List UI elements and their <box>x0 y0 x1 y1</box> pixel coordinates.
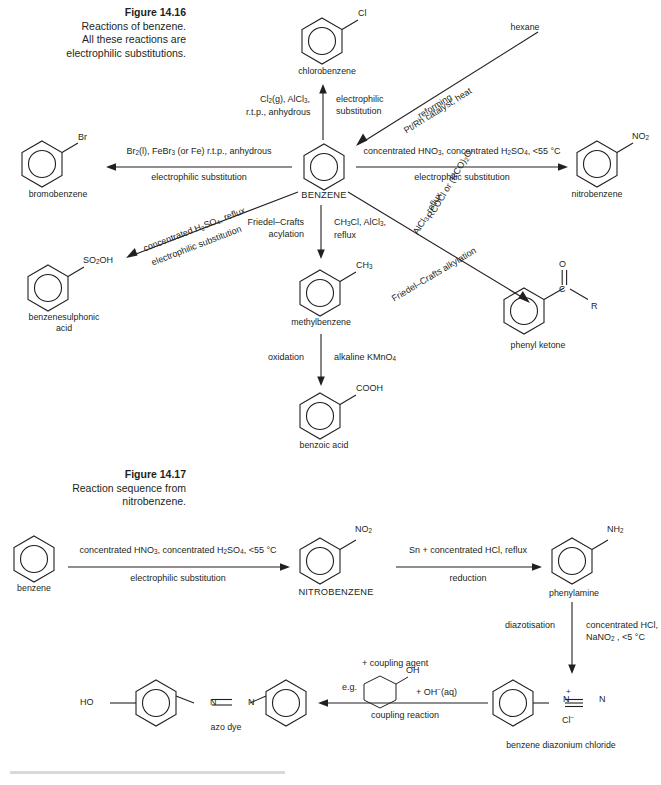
azo-dye-n2-label: N <box>248 697 255 709</box>
oxidation-arrow <box>314 334 328 390</box>
bromination-reagents: Br2(l), FeBr3 (or Fe) r.t.p., anhydrous <box>106 146 292 159</box>
diazotisation-reagents-line-1: concentrated HCl, <box>586 620 658 632</box>
diazotisation-reagents-line-2: NaNO2 , <5 °C <box>586 632 658 645</box>
fig2-nitrobenzene-name: NITROBENZENE <box>272 587 400 597</box>
phenyl-ketone-name: phenyl ketone <box>487 340 589 351</box>
alkylation-type-line-2: acylation <box>212 229 304 241</box>
bromobenzene-name: bromobenzene <box>2 189 114 200</box>
figure-14-16-caption-line-2: All these reactions are <box>0 33 186 47</box>
phenyl-ketone-r-label: R <box>591 301 598 313</box>
diazonium-charge-plus: + <box>566 686 571 698</box>
figure-14-17-caption-line-2: nitrobenzene. <box>0 495 186 509</box>
azo-dye-ho-label: HO <box>80 697 94 709</box>
diazotisation-arrow <box>565 602 579 678</box>
figure-14-17-caption: Figure 14.17 Reaction sequence from nitr… <box>0 468 186 509</box>
figure-14-16-title: Figure 14.16 <box>0 6 186 20</box>
bromobenzene-substituent-label: Br <box>78 132 87 144</box>
benzene-center-structure <box>298 141 350 197</box>
coupling-eg: e.g. <box>342 682 357 694</box>
nitrobenzene-substituent-label: NO2 <box>632 131 649 144</box>
benzenesulphonic-acid-name-line-2: acid <box>2 323 126 334</box>
reduction-type: reduction <box>390 573 546 585</box>
chlorination-arrow <box>316 84 330 144</box>
chlorination-reagents-line-1: Cl2(g), AlCl3, <box>246 94 310 107</box>
diazonium-n-plus-label: + N <box>563 694 570 706</box>
figure-14-16-caption-line-1: Reactions of benzene. <box>0 20 186 34</box>
nitrobenzene-name: nitrobenzene <box>551 189 643 200</box>
coupling-hydroxide-label: + OH−(aq) <box>416 684 457 698</box>
coupling-type: coupling reaction <box>330 710 480 722</box>
fig2-nitration-type: electrophilic substitution <box>68 573 288 585</box>
alkylation-arrow <box>314 205 328 263</box>
phenyl-ketone-oxygen-label: O <box>559 259 566 271</box>
alkylation-type-line-1: Friedel–Crafts <box>212 217 304 229</box>
coupling-phenol-oh-label: OH <box>406 665 420 677</box>
figure-14-17-caption-line-1: Reaction sequence from <box>0 482 186 496</box>
azo-dye-name: azo dye <box>186 722 266 733</box>
phenyl-ketone-carbon-label: C <box>559 284 566 296</box>
oxidation-reagents: alkaline KMnO4 <box>334 352 396 365</box>
benzenesulphonic-acid-name-line-1: benzenesulphonic <box>2 312 126 323</box>
figure-14-16-caption: Figure 14.16 Reactions of benzene. All t… <box>0 6 186 60</box>
bottom-rule <box>10 771 285 774</box>
phenylamine-substituent-label: NH2 <box>607 524 624 537</box>
figure-14-16-caption-line-3: electrophilic substitutions. <box>0 47 186 61</box>
fig2-nitrobenzene-substituent-label: NO2 <box>355 524 372 537</box>
diazotisation-reagents: concentrated HCl, NaNO2 , <5 °C <box>586 620 658 644</box>
chlorination-reagents: Cl2(g), AlCl3, r.t.p., anhydrous <box>246 94 310 118</box>
diazonium-structure <box>487 677 593 743</box>
benzenesulphonic-acid-substituent-label: SO2OH <box>83 255 113 268</box>
oxidation-type: oxidation <box>236 352 304 364</box>
fig2-nitrobenzene-structure <box>296 528 376 590</box>
benzoic-acid-substituent-label: COOH <box>356 383 383 395</box>
reduction-reagents: Sn + concentrated HCl, reflux <box>390 545 546 557</box>
diazotisation-type: diazotisation <box>472 620 555 632</box>
diazonium-counter-ion-label: Cl− <box>562 712 574 726</box>
chlorination-reagents-line-2: r.t.p., anhydrous <box>246 107 310 119</box>
bromination-type: electrophilic substitution <box>106 172 292 184</box>
fig2-nitration-reagents: concentrated HNO3, concentrated H2SO4, <… <box>68 545 288 558</box>
methylbenzene-name: methylbenzene <box>275 317 367 328</box>
benzoic-acid-name: benzoic acid <box>278 440 370 451</box>
fig2-benzene-name: benzene <box>0 583 68 594</box>
phenylamine-name: phenylamine <box>528 588 620 599</box>
diazonium-name: benzene diazonium chloride <box>468 740 654 751</box>
chlorobenzene-substituent-label: Cl <box>358 8 367 20</box>
figure-14-17-title: Figure 14.17 <box>0 468 186 482</box>
diazonium-n2-label: N <box>599 694 606 706</box>
alkylation-type: Friedel–Crafts acylation <box>212 217 304 240</box>
benzenesulphonic-acid-name: benzenesulphonic acid <box>2 312 126 334</box>
azo-dye-n1-label: N <box>210 697 217 709</box>
phenylamine-structure <box>548 528 628 590</box>
